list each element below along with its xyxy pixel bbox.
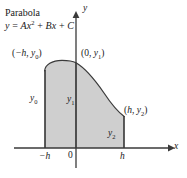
parabola-figure: Parabola y = Ax2 + Bx + C y x (−h, y0) (… (0, 0, 187, 178)
ordinate-label-y0-subscript: 0 (34, 98, 37, 105)
ordinate-label-y2: y2 (108, 128, 115, 139)
point-label-middle: (0, y1) (81, 48, 104, 59)
point-label-left-x: −h (15, 48, 26, 58)
equation-equals: = (10, 20, 21, 31)
equation-plus-1: + (35, 20, 46, 31)
caption-title: Parabola (5, 7, 40, 18)
equation-plus-2: + (56, 20, 67, 31)
point-label-right: (h, y2) (124, 105, 147, 116)
ordinate-label-y1: y1 (67, 94, 74, 105)
ordinate-label-y1-subscript: 1 (71, 99, 74, 106)
ordinate-label-y2-subscript: 2 (112, 133, 115, 140)
point-label-left-close: ) (39, 48, 42, 58)
x-tick-label-origin: 0 (68, 150, 73, 161)
x-tick-label-plus-h: h (120, 151, 125, 162)
caption-equation: y = Ax2 + Bx + C (5, 20, 74, 32)
point-label-middle-close: ) (101, 48, 104, 58)
point-label-right-close: ) (144, 105, 147, 115)
y-axis-label: y (83, 3, 87, 14)
point-label-left: (−h, y0) (12, 48, 42, 59)
ordinate-label-y0: y0 (30, 93, 37, 104)
equation-term-c: C (67, 20, 74, 31)
x-tick-label-minus-h: −h (39, 151, 50, 162)
x-axis-label: x (174, 141, 178, 152)
figure-caption: Parabola y = Ax2 + Bx + C (5, 7, 74, 32)
